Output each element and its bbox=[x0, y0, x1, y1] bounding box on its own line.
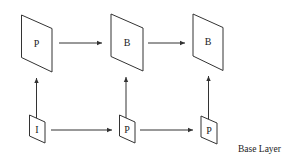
layered-frame-diagram: P B B I P P Base Layer bbox=[0, 0, 286, 158]
frame-label: B bbox=[205, 36, 212, 47]
frame-label: B bbox=[124, 37, 131, 48]
enhancement-frame-3: B bbox=[193, 14, 223, 71]
base-frame-3: P bbox=[201, 116, 217, 144]
frame-label: I bbox=[35, 124, 38, 135]
base-layer-label: Base Layer bbox=[238, 144, 282, 154]
enhancement-frame-1: P bbox=[22, 15, 53, 72]
enhancement-frame-2: B bbox=[111, 14, 143, 71]
frame-label: P bbox=[124, 124, 130, 135]
base-frame-2: P bbox=[120, 115, 136, 143]
frame-label: P bbox=[206, 125, 212, 136]
frame-label: P bbox=[34, 38, 40, 49]
base-frame-1: I bbox=[30, 115, 46, 143]
